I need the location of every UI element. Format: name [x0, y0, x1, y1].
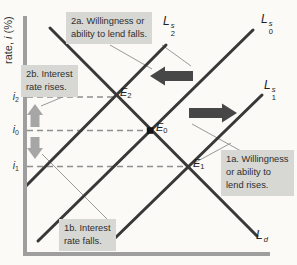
label-ld-base: L — [256, 228, 263, 242]
y-axis-title: rate, i (%) — [2, 16, 14, 64]
callout-2a-line2: ability to lend falls. — [71, 28, 147, 41]
right-shift-arrow-icon — [189, 104, 237, 123]
callout-1a: 1a. Willingness or ability to lend rises… — [221, 150, 294, 196]
callout-1a-line2: or ability to — [226, 166, 289, 179]
callout-1b-line2: rate falls. — [64, 235, 111, 248]
label-ls1: Ls1 — [264, 79, 276, 102]
callout-1a-line3: lend rises. — [226, 179, 289, 192]
label-ls0: Ls0 — [261, 13, 273, 36]
label-ls0-base: L — [261, 12, 268, 26]
callout-2b: 2b. Interest rate rises. — [21, 65, 78, 97]
tick-i1-sub: 1 — [15, 165, 19, 172]
label-ls0-sub: 0 — [269, 28, 273, 36]
label-e1-sub: 1 — [200, 162, 204, 171]
callout-2b-line2: rate rises. — [26, 81, 73, 94]
label-ls2-base: L — [163, 14, 170, 28]
callout-1a-line1: 1a. Willingness — [226, 153, 289, 166]
label-ls2: Ls2 — [163, 15, 175, 38]
callout-1b-line1: 1b. Interest — [64, 222, 111, 235]
left-shift-arrow-icon — [150, 67, 193, 86]
label-ls2-sub: 2 — [171, 30, 175, 38]
callout-2a-line1: 2a. Willingness or — [71, 15, 147, 28]
label-e2-sub: 2 — [127, 91, 131, 100]
callout-1b: 1b. Interest rate falls. — [59, 219, 116, 251]
y-axis-title-prefix: rate, — [2, 39, 14, 64]
label-ld: Ld — [256, 229, 268, 244]
rate-rise-up-arrow-icon — [27, 104, 43, 127]
tick-i0-sub: 0 — [15, 129, 19, 136]
y-axis-title-suffix: (%) — [2, 16, 14, 36]
label-ls1-base: L — [264, 78, 271, 92]
label-e1: E1 — [193, 158, 205, 171]
callout-2a: 2a. Willingness or ability to lend falls… — [66, 12, 152, 44]
tick-i2: i2 — [3, 90, 19, 103]
leader-line-2a-right — [162, 45, 191, 66]
tick-i0: i0 — [3, 123, 19, 136]
tick-i1: i1 — [3, 159, 19, 172]
label-e0: E0 — [156, 122, 168, 135]
callout-2b-line1: 2b. Interest — [26, 68, 73, 81]
label-ls1-sub: 1 — [272, 94, 276, 102]
label-e0-sub: 0 — [163, 126, 167, 135]
label-e2: E2 — [120, 87, 132, 100]
rate-fall-down-arrow-icon — [27, 137, 43, 159]
leader-line-1b — [42, 154, 112, 224]
tick-i2-sub: 2 — [15, 96, 19, 103]
loanable-funds-diagram: rate, i (%) i2 i0 i1 Ls2 Ls0 Ls1 Ld E2 E… — [0, 0, 297, 265]
y-axis-title-variable: i — [2, 36, 14, 38]
equilibrium-point-e0 — [147, 127, 154, 134]
label-ld-sup: d — [264, 236, 268, 244]
